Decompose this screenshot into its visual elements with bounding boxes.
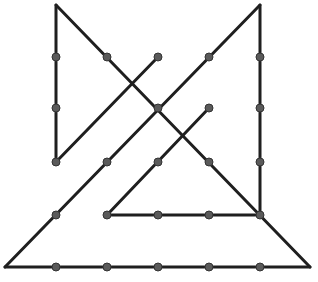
grid-dot [154,211,162,219]
segment-left-short-diagonal-up [56,57,158,162]
grid-dot [205,104,213,112]
grid-dot [52,263,60,271]
grid-dot [103,211,111,219]
grid-dot [256,211,264,219]
diagram-canvas [0,0,318,282]
grid-dot [52,53,60,61]
grid-dot [52,104,60,112]
grid-dot [205,263,213,271]
grid-dot [52,158,60,166]
grid-dot [154,104,162,112]
grid-dot [103,53,111,61]
line-segments [5,5,310,267]
grid-dot [256,158,264,166]
grid-dots [52,53,264,271]
grid-dot [154,158,162,166]
line-puzzle-diagram [0,0,318,282]
grid-dot [52,211,60,219]
grid-dot [205,158,213,166]
grid-dot [205,211,213,219]
grid-dot [154,53,162,61]
grid-dot [256,53,264,61]
grid-dot [103,263,111,271]
grid-dot [256,104,264,112]
grid-dot [205,53,213,61]
grid-dot [103,158,111,166]
grid-dot [256,263,264,271]
grid-dot [154,263,162,271]
segment-long-diagonal-down-left [5,5,260,267]
